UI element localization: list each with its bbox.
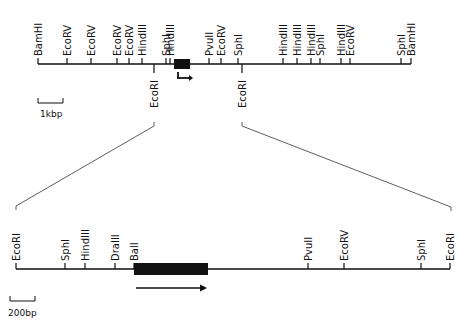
- site-label: EcoRV: [216, 25, 227, 56]
- site-label: HindIII: [137, 24, 148, 56]
- site-label: HindIII: [292, 24, 303, 56]
- zoom-connector-lines: [16, 122, 451, 211]
- site-label: SphI: [416, 239, 427, 261]
- scale-label-top: 1kbp: [40, 109, 63, 119]
- scale-label-bottom: 200bp: [8, 308, 37, 318]
- gene-box-bottom: [134, 263, 208, 275]
- scale-bar-bottom: 200bp: [8, 296, 37, 318]
- gene-box-top: [174, 59, 190, 69]
- site-label: PvuII: [204, 32, 215, 56]
- top-ecori-sites: EcoRIEcoRI: [149, 64, 248, 108]
- bottom-map: EcoRISphIHindIIIDraIIIBalIPvuIIEcoRVSphI…: [8, 229, 456, 318]
- site-label: EcoRI: [237, 80, 248, 108]
- site-label: HindIII: [165, 24, 176, 56]
- site-label: HindIII: [80, 229, 91, 261]
- site-label: EcoRV: [124, 25, 135, 56]
- site-label: SphI: [233, 34, 244, 56]
- site-label: EcoRV: [345, 25, 356, 56]
- top-site-ticks: BamHIEcoRVEcoRVEcoRVEcoRVHindIIISphIHind…: [33, 23, 417, 64]
- bottom-site-ticks: EcoRISphIHindIIIDraIIIBalIPvuIIEcoRVSphI…: [11, 229, 456, 269]
- site-label: BamHI: [33, 23, 44, 56]
- site-label: SphI: [60, 239, 71, 261]
- scale-bar-top: 1kbp: [38, 98, 63, 119]
- site-label: EcoRI: [149, 80, 160, 108]
- site-label: PvuII: [303, 237, 314, 261]
- direction-arrow-bottom: [136, 285, 207, 292]
- direction-arrow-top: [177, 72, 193, 81]
- site-label: HindIII: [278, 24, 289, 56]
- site-label: EcoRV: [112, 25, 123, 56]
- site-label: EcoRV: [86, 25, 97, 56]
- site-label: EcoRI: [11, 233, 22, 261]
- site-label: EcoRI: [445, 233, 456, 261]
- site-label: SphI: [315, 34, 326, 56]
- site-label: BalI: [129, 242, 140, 261]
- site-label: EcoRV: [62, 25, 73, 56]
- restriction-map-diagram: BamHIEcoRVEcoRVEcoRVEcoRVHindIIISphIHind…: [0, 0, 465, 332]
- site-label: BamHI: [406, 23, 417, 56]
- top-map: BamHIEcoRVEcoRVEcoRVEcoRVHindIIISphIHind…: [33, 23, 417, 119]
- site-label: DraIII: [110, 234, 121, 261]
- site-label: EcoRV: [339, 230, 350, 261]
